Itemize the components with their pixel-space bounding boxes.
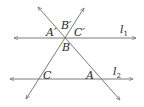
label-l1-subscript: 1 <box>124 30 128 38</box>
transversal-2 <box>26 8 84 99</box>
label-a-prime: A′ <box>45 26 57 39</box>
label-l1: l1 <box>120 23 128 38</box>
label-a: A <box>85 69 94 82</box>
label-c: C <box>43 69 52 82</box>
parallel-lines-diagram: A′ B′ C′ B C A l1 l2 <box>0 0 144 107</box>
label-c-prime: C′ <box>74 26 85 39</box>
label-b-prime: B′ <box>60 19 72 32</box>
label-l2-subscript: 2 <box>117 72 121 80</box>
label-b: B <box>61 41 70 54</box>
diagram-svg: A′ B′ C′ B C A l1 l2 <box>0 0 144 107</box>
transversal-1 <box>38 7 120 100</box>
label-l2: l2 <box>113 65 121 80</box>
